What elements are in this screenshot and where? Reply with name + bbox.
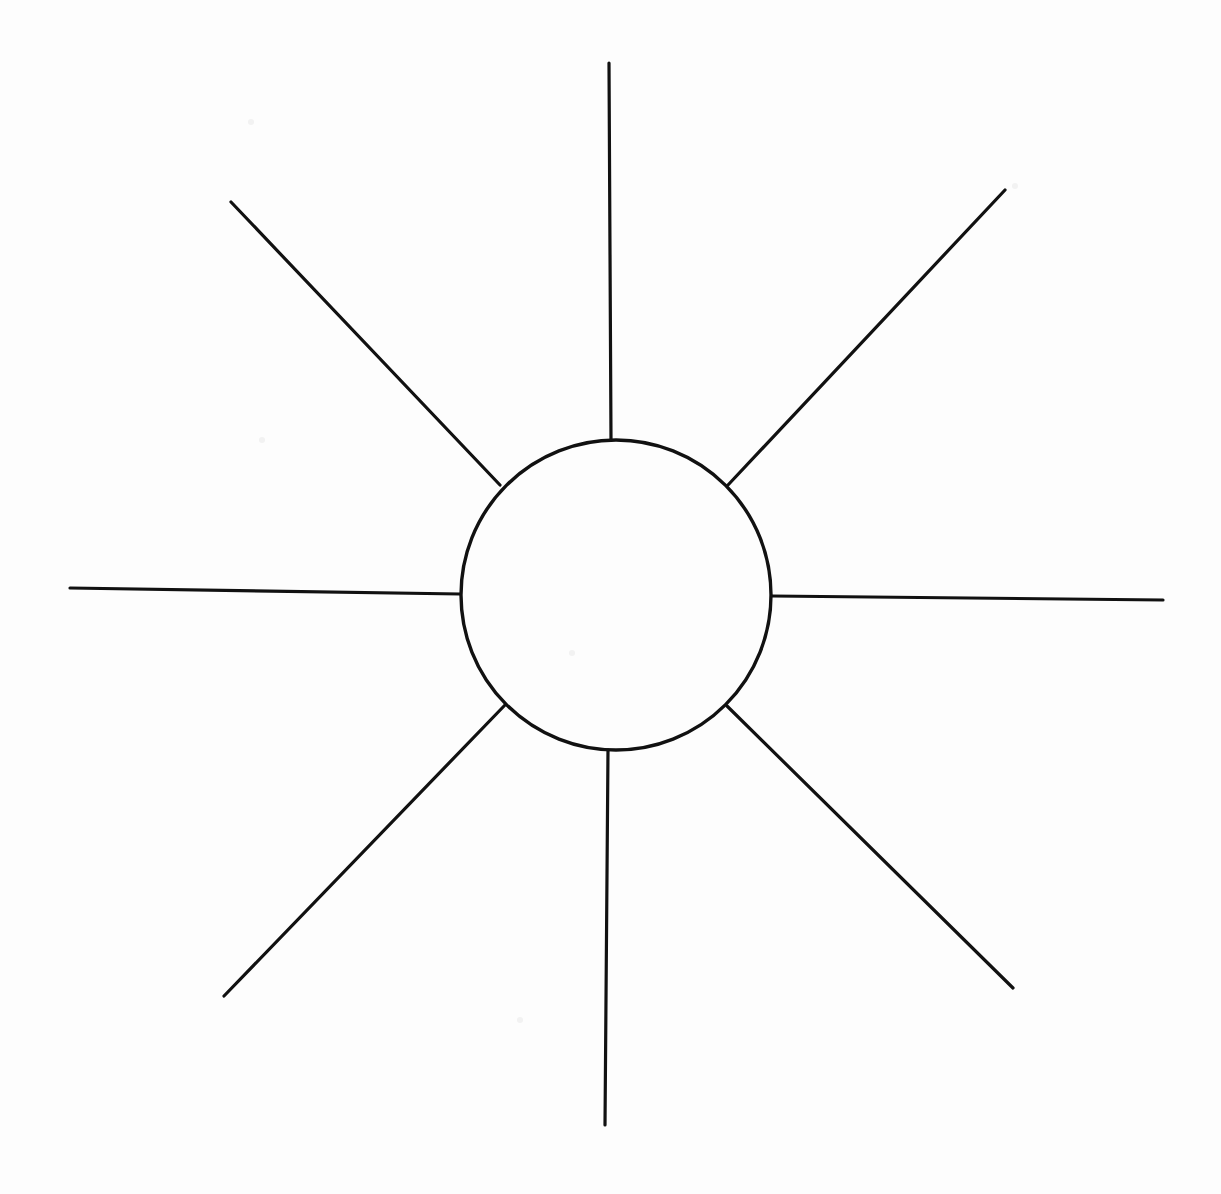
ray-north (609, 63, 611, 440)
scan-speckle (1012, 183, 1018, 189)
scan-speckle (517, 1017, 523, 1023)
scan-speckle (248, 119, 254, 125)
sun-diagram (0, 0, 1221, 1194)
scan-speckle (569, 650, 575, 656)
scan-speckle (259, 437, 265, 443)
drawing-canvas (0, 0, 1221, 1194)
